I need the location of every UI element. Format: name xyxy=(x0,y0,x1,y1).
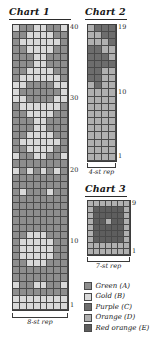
chart-cell xyxy=(54,153,61,160)
chart-cell xyxy=(13,146,20,153)
chart-cell xyxy=(109,68,116,75)
chart-cell xyxy=(88,82,95,89)
chart-cell xyxy=(61,125,68,132)
chart-cell xyxy=(109,147,116,154)
chart-cell xyxy=(41,303,48,310)
legend-swatch-e xyxy=(84,324,92,332)
chart-cell xyxy=(47,111,54,118)
chart-cell xyxy=(102,46,109,53)
chart-cell xyxy=(47,39,54,46)
chart-cell xyxy=(34,217,41,224)
chart-cell xyxy=(61,61,68,68)
legend-item: Orange (D) xyxy=(84,313,149,324)
chart-cell xyxy=(41,132,48,139)
chart-cell xyxy=(13,239,20,246)
row-number-label: 30 xyxy=(70,95,78,102)
chart-cell xyxy=(41,111,48,118)
chart-cell xyxy=(20,160,27,167)
chart-cell xyxy=(109,132,116,139)
chart-cell xyxy=(41,217,48,224)
chart-cell xyxy=(34,260,41,267)
chart-cell xyxy=(34,175,41,182)
chart-cell xyxy=(27,232,34,239)
chart-cell xyxy=(20,139,27,146)
chart-cell xyxy=(20,260,27,267)
chart-cell xyxy=(54,253,61,260)
chart-cell xyxy=(34,153,41,160)
chart-cell xyxy=(61,210,68,217)
legend-item: Gold (B) xyxy=(84,292,149,303)
chart-cell xyxy=(20,168,27,175)
chart-cell xyxy=(34,96,41,103)
chart-cell xyxy=(20,303,27,310)
chart-cell xyxy=(95,140,102,147)
chart-cell xyxy=(109,54,116,61)
chart-3-grid[interactable] xyxy=(87,200,131,256)
chart-3-title: Chart 3 xyxy=(85,183,126,194)
row-number-label: 10 xyxy=(118,89,126,96)
chart-cell xyxy=(34,68,41,75)
chart-3-title-rule xyxy=(85,196,127,197)
chart-cell xyxy=(13,296,20,303)
chart-cell xyxy=(54,75,61,82)
chart-cell xyxy=(41,289,48,296)
chart-cell xyxy=(54,61,61,68)
chart-cell xyxy=(61,96,68,103)
chart-cell xyxy=(20,39,27,46)
chart-cell xyxy=(88,54,95,61)
chart-1-grid[interactable] xyxy=(12,24,69,311)
chart-cell xyxy=(27,132,34,139)
chart-cell xyxy=(47,139,54,146)
chart-cell xyxy=(13,196,20,203)
chart-cell xyxy=(34,203,41,210)
chart-cell xyxy=(61,75,68,82)
chart-cell xyxy=(27,118,34,125)
chart-cell xyxy=(41,118,48,125)
chart-cell xyxy=(20,189,27,196)
chart-2-grid[interactable] xyxy=(87,24,117,162)
chart-cell xyxy=(20,225,27,232)
chart-3-repeat-label: 7-st rep xyxy=(85,262,132,270)
chart-cell xyxy=(124,249,130,255)
chart-cell xyxy=(109,111,116,118)
chart-cell xyxy=(27,274,34,281)
chart-cell xyxy=(54,196,61,203)
chart-cell xyxy=(61,260,68,267)
legend-label: Purple (C) xyxy=(96,303,132,312)
chart-cell xyxy=(109,39,116,46)
chart-cell xyxy=(95,39,102,46)
chart-cell xyxy=(109,46,116,53)
chart-cell xyxy=(47,239,54,246)
chart-cell xyxy=(61,217,68,224)
chart-cell xyxy=(20,175,27,182)
chart-cell xyxy=(88,61,95,68)
chart-cell xyxy=(102,140,109,147)
chart-cell xyxy=(102,32,109,39)
chart-cell xyxy=(41,89,48,96)
legend-item: Green (A) xyxy=(84,281,149,292)
chart-cell xyxy=(13,82,20,89)
chart-cell xyxy=(34,132,41,139)
chart-cell xyxy=(47,289,54,296)
chart-cell xyxy=(13,132,20,139)
chart-cell xyxy=(34,210,41,217)
chart-cell xyxy=(54,82,61,89)
chart-cell xyxy=(47,89,54,96)
chart-cell xyxy=(13,253,20,260)
chart-cell xyxy=(61,225,68,232)
chart-cell xyxy=(61,118,68,125)
chart-2-repeat-label: 4-st rep xyxy=(86,168,117,176)
chart-cell xyxy=(54,39,61,46)
chart-cell xyxy=(27,182,34,189)
chart-cell xyxy=(54,160,61,167)
chart-cell xyxy=(95,82,102,89)
chart-2-title: Chart 2 xyxy=(85,6,126,17)
chart-cell xyxy=(88,25,95,32)
chart-cell xyxy=(54,68,61,75)
chart-cell xyxy=(54,296,61,303)
chart-cell xyxy=(34,303,41,310)
chart-cell xyxy=(20,210,27,217)
chart-cell xyxy=(20,182,27,189)
chart-cell xyxy=(61,203,68,210)
chart-cell xyxy=(47,253,54,260)
